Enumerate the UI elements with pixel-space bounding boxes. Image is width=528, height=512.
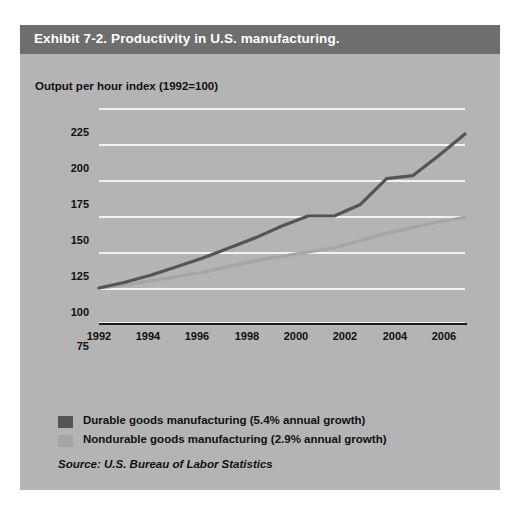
y-axis-label-125: 125: [49, 270, 89, 282]
x-axis-label-2004: 2004: [373, 330, 417, 342]
legend-item-durable: Durable goods manufacturing (5.4% annual…: [58, 413, 458, 431]
legend-swatch-nondurable: [58, 435, 73, 447]
y-axis-label-150: 150: [49, 234, 89, 246]
gridline-125: [99, 252, 465, 254]
gridline-200: [99, 144, 465, 146]
x-axis-label-1994: 1994: [126, 330, 170, 342]
y-axis-label-225: 225: [49, 126, 89, 138]
source-note: Source: U.S. Bureau of Labor Statistics: [58, 458, 273, 470]
x-axis-label-2000: 2000: [274, 330, 318, 342]
legend-label-durable: Durable goods manufacturing (5.4% annual…: [83, 414, 365, 426]
chart-plot-area: [99, 108, 465, 324]
exhibit-title-bar: Exhibit 7-2. Productivity in U.S. manufa…: [20, 25, 500, 54]
y-axis-label-200: 200: [49, 162, 89, 174]
legend-label-nondurable: Nondurable goods manufacturing (2.9% ann…: [83, 433, 386, 445]
y-axis-label-100: 100: [49, 306, 89, 318]
gridline-150: [99, 216, 465, 218]
y-axis-label-175: 175: [49, 198, 89, 210]
gridline-100: [99, 288, 465, 290]
x-axis-label-2002: 2002: [323, 330, 367, 342]
gridline-175: [99, 180, 465, 182]
x-axis-label-2006: 2006: [422, 330, 466, 342]
x-axis-label-1992: 1992: [77, 330, 121, 342]
exhibit-panel: Exhibit 7-2. Productivity in U.S. manufa…: [20, 25, 500, 490]
x-axis-line: [99, 323, 467, 325]
legend-swatch-durable: [58, 416, 73, 428]
page-title: Exhibit 7-2. Productivity in U.S. manufa…: [34, 31, 340, 46]
x-axis-label-1998: 1998: [225, 330, 269, 342]
chart-legend: Durable goods manufacturing (5.4% annual…: [58, 413, 458, 451]
x-axis-label-1996: 1996: [175, 330, 219, 342]
legend-item-nondurable: Nondurable goods manufacturing (2.9% ann…: [58, 432, 458, 450]
y-axis-title: Output per hour index (1992=100): [35, 80, 218, 92]
gridline-225: [99, 108, 465, 110]
